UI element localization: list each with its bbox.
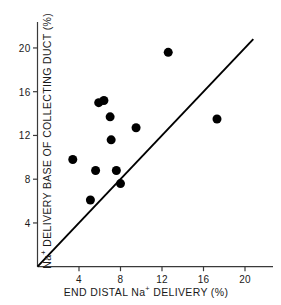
y-tick-label-16: 16 bbox=[0, 86, 31, 97]
y-tick-label-4: 4 bbox=[0, 217, 31, 228]
data-point bbox=[107, 135, 116, 144]
data-point bbox=[68, 155, 77, 164]
data-point bbox=[86, 195, 95, 204]
x-axis-title-pre: END DISTAL Na bbox=[64, 286, 146, 298]
data-points-group bbox=[68, 48, 221, 205]
y-axis-ticks bbox=[33, 48, 38, 223]
data-point bbox=[116, 179, 125, 188]
scatter-plot-figure: 48121620 48121620 Na+ DELIVERY BASE OF C… bbox=[0, 0, 281, 305]
y-axis-title-superscript: + bbox=[39, 250, 48, 255]
data-point bbox=[132, 123, 141, 132]
y-tick-label-8: 8 bbox=[0, 174, 31, 185]
identity-reference-line bbox=[38, 39, 254, 267]
data-point bbox=[99, 96, 108, 105]
data-point bbox=[212, 115, 221, 124]
x-axis-ticks bbox=[79, 267, 245, 272]
y-axis-title-pre: Na bbox=[41, 255, 53, 269]
y-tick-label-12: 12 bbox=[0, 130, 31, 141]
y-axis-title: Na+ DELIVERY BASE OF COLLECTING DUCT (%) bbox=[39, 29, 53, 269]
identity-line bbox=[38, 39, 254, 267]
y-axis-title-post: DELIVERY BASE OF COLLECTING DUCT (%) bbox=[41, 13, 53, 250]
x-axis-title: END DISTAL Na+ DELIVERY (%) bbox=[36, 284, 256, 298]
data-point bbox=[91, 166, 100, 175]
data-point bbox=[164, 48, 173, 57]
data-point bbox=[106, 112, 115, 121]
x-axis-title-post: DELIVERY (%) bbox=[150, 286, 228, 298]
data-point bbox=[112, 166, 121, 175]
y-tick-label-20: 20 bbox=[0, 42, 31, 53]
